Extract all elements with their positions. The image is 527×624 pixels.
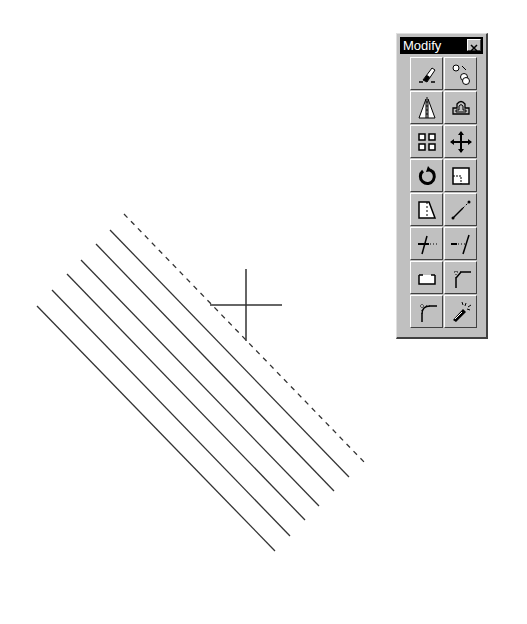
chamfer-icon <box>449 266 473 290</box>
extend-button[interactable] <box>444 227 477 260</box>
solid-line[interactable] <box>81 260 319 506</box>
trim-button[interactable] <box>410 227 443 260</box>
explode-icon <box>449 300 473 324</box>
erase-button[interactable] <box>410 57 443 90</box>
scale-icon <box>449 164 473 188</box>
lengthen-icon <box>449 198 473 222</box>
rotate-icon <box>415 164 439 188</box>
mirror-icon <box>415 96 439 120</box>
explode-button[interactable] <box>444 295 477 328</box>
array-icon <box>415 130 439 154</box>
rotate-button[interactable] <box>410 159 443 192</box>
copy-button[interactable] <box>444 57 477 90</box>
trim-icon <box>415 232 439 256</box>
fillet-icon <box>415 300 439 324</box>
modify-toolbar: Modify <box>396 33 488 339</box>
scale-button[interactable] <box>444 159 477 192</box>
chamfer-button[interactable] <box>444 261 477 294</box>
offset-button[interactable] <box>444 91 477 124</box>
solid-line[interactable] <box>110 230 349 477</box>
solid-line[interactable] <box>96 244 334 491</box>
close-button[interactable] <box>467 39 481 51</box>
solid-line[interactable] <box>52 290 290 536</box>
move-button[interactable] <box>444 125 477 158</box>
drawn-lines <box>37 214 365 551</box>
stretch-button[interactable] <box>410 193 443 226</box>
break-icon <box>415 266 439 290</box>
toolbar-title-bar[interactable]: Modify <box>400 37 483 54</box>
close-icon <box>468 43 480 53</box>
offset-icon <box>449 96 473 120</box>
fillet-button[interactable] <box>410 295 443 328</box>
break-button[interactable] <box>410 261 443 294</box>
stretch-icon <box>415 198 439 222</box>
extend-icon <box>449 232 473 256</box>
mirror-button[interactable] <box>410 91 443 124</box>
crosshair-cursor <box>210 269 282 341</box>
copy-object-icon <box>449 62 473 86</box>
toolbar-title: Modify <box>403 38 441 53</box>
move-icon <box>449 130 473 154</box>
eraser-icon <box>415 62 439 86</box>
solid-line[interactable] <box>37 306 275 551</box>
array-button[interactable] <box>410 125 443 158</box>
lengthen-button[interactable] <box>444 193 477 226</box>
solid-line[interactable] <box>67 274 305 520</box>
dashed-line[interactable] <box>124 214 365 463</box>
